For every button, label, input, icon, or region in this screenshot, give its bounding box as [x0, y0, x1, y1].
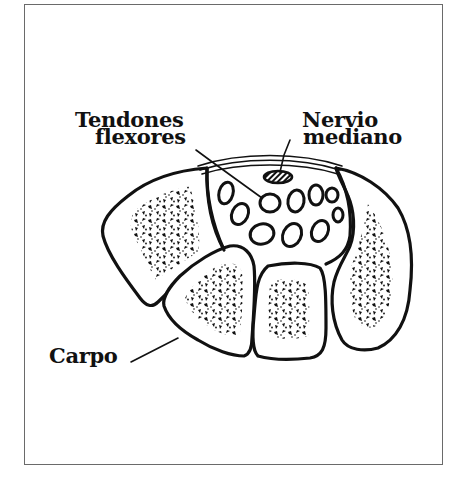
- tendon: [308, 218, 332, 245]
- tendon: [333, 208, 343, 222]
- carpal-bone-bottom-center: [253, 263, 326, 359]
- label-tendones-flexores-line2: flexores: [95, 128, 186, 145]
- leader-carpo: [131, 338, 178, 362]
- wrist-cross-section-diagram: [0, 0, 459, 481]
- tendon: [260, 194, 280, 212]
- tendon: [286, 189, 306, 213]
- label-nervio-mediano-line2: mediano: [303, 128, 402, 145]
- tendon: [279, 220, 305, 249]
- carpal-bone-right: [332, 168, 411, 350]
- tendon: [326, 188, 338, 202]
- flexor-tendons: [216, 181, 343, 250]
- tendon: [228, 201, 252, 228]
- tendon: [248, 221, 276, 247]
- tendon: [216, 181, 235, 206]
- label-carpo: Carpo: [49, 347, 118, 364]
- median-nerve: [264, 171, 292, 183]
- tendon: [309, 185, 323, 205]
